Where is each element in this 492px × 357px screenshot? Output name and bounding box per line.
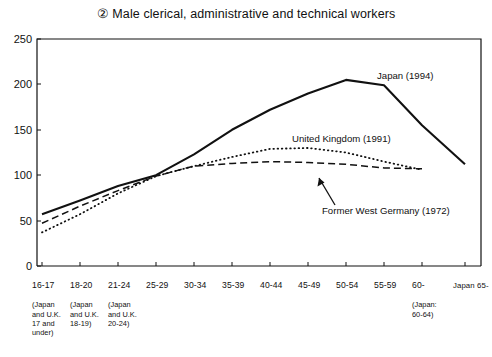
x-axis-label-sub: (Japan and U.K. 20-24) — [108, 300, 144, 328]
x-axis-label-main: 40-44 — [260, 281, 296, 290]
x-axis-label-main: 45-49 — [298, 281, 334, 290]
x-axis-label-8: 50-54 — [336, 272, 372, 300]
annotation-arrow-former-west-germany — [318, 178, 336, 205]
x-axis-label-main: 16-17 — [32, 281, 68, 290]
x-axis-label-7: 45-49 — [298, 272, 334, 300]
x-axis-label-main: 50-54 — [336, 281, 372, 290]
chart-container: ② Male clerical, administrative and tech… — [0, 0, 492, 357]
annotation-japan: Japan (1994) — [377, 70, 434, 81]
x-axis-label-main: 25-29 — [146, 281, 182, 290]
x-axis-label-6: 40-44 — [260, 272, 296, 300]
x-axis-label-main: 60- — [412, 281, 448, 290]
x-axis-label-11: Japan 65- — [453, 272, 492, 300]
x-axis-label-2: 21-24 (Japan and U.K. 20-24) — [108, 272, 144, 338]
series-line-united-kingdom — [42, 148, 422, 232]
x-axis-label-sub: (Japan and U.K. 17 and under) — [32, 300, 68, 338]
x-axis-label-1: 18-20 (Japan and U.K. 18-19) — [70, 272, 106, 338]
annotation-former-west-germany: Former West Germany (1972) — [322, 205, 450, 216]
x-axis-label-main: Japan 65- — [453, 281, 492, 290]
x-axis-label-main: 35-39 — [222, 281, 258, 290]
x-axis-label-3: 25-29 — [146, 272, 182, 300]
x-axis-label-sub: (Japan: 60-64) — [412, 300, 448, 319]
x-axis-label-4: 30-34 — [184, 272, 220, 300]
series-line-japan — [42, 80, 465, 214]
x-axis-label-main: 21-24 — [108, 281, 144, 290]
x-axis-label-5: 35-39 — [222, 272, 258, 300]
x-axis-label-main: 30-34 — [184, 281, 220, 290]
x-axis-label-10: 60- (Japan: 60-64) — [412, 272, 448, 328]
annotation-united-kingdom: United Kingdom (1991) — [292, 133, 391, 144]
x-axis-label-0: 16-17 (Japan and U.K. 17 and under) — [32, 272, 68, 347]
x-axis-label-main: 18-20 — [70, 281, 106, 290]
x-axis-label-9: 55-59 — [374, 272, 410, 300]
x-axis-label-main: 55-59 — [374, 281, 410, 290]
x-axis-label-sub: (Japan and U.K. 18-19) — [70, 300, 106, 328]
